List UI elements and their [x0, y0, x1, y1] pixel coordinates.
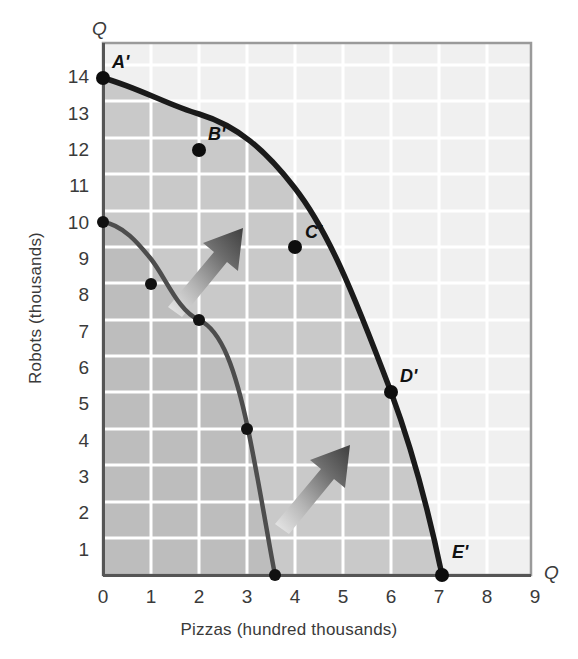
point-label-b-prime: B' [208, 124, 225, 145]
point-label-e-prime: E' [452, 542, 468, 563]
x-tick-1: 1 [136, 586, 166, 608]
point-label-a-prime: A' [112, 52, 129, 73]
x-tick-3: 3 [232, 586, 262, 608]
y-axis-title: Robots (thousands) [26, 208, 46, 408]
y-tick-10: 10 [55, 212, 89, 234]
x-tick-0: 0 [88, 586, 118, 608]
ppf-chart-figure: Q Q 14 13 12 11 10 9 8 7 6 5 4 3 2 1 0 1… [0, 0, 578, 659]
x-axis-title: Pizzas (hundred thousands) [0, 620, 578, 640]
x-tick-4: 4 [280, 586, 310, 608]
y-tick-8: 8 [55, 284, 89, 306]
y-tick-14: 14 [55, 66, 89, 88]
y-tick-5: 5 [55, 393, 89, 415]
y-tick-3: 3 [55, 466, 89, 488]
y-tick-1: 1 [55, 539, 89, 561]
y-tick-4: 4 [55, 430, 89, 452]
y-tick-7: 7 [55, 321, 89, 343]
y-tick-13: 13 [55, 103, 89, 125]
y-tick-6: 6 [55, 357, 89, 379]
point-label-c-prime: C' [305, 222, 322, 243]
x-tick-6: 6 [376, 586, 406, 608]
y-tick-12: 12 [55, 139, 89, 161]
y-axis-symbol: Q [92, 18, 107, 40]
x-tick-5: 5 [328, 586, 358, 608]
x-tick-8: 8 [472, 586, 502, 608]
y-tick-11: 11 [55, 175, 89, 197]
point-label-d-prime: D' [400, 366, 417, 387]
y-tick-2: 2 [55, 502, 89, 524]
x-axis-symbol: Q [544, 562, 559, 584]
x-tick-2: 2 [184, 586, 214, 608]
y-tick-9: 9 [55, 248, 89, 270]
x-tick-9: 9 [520, 586, 550, 608]
x-tick-7: 7 [424, 586, 454, 608]
